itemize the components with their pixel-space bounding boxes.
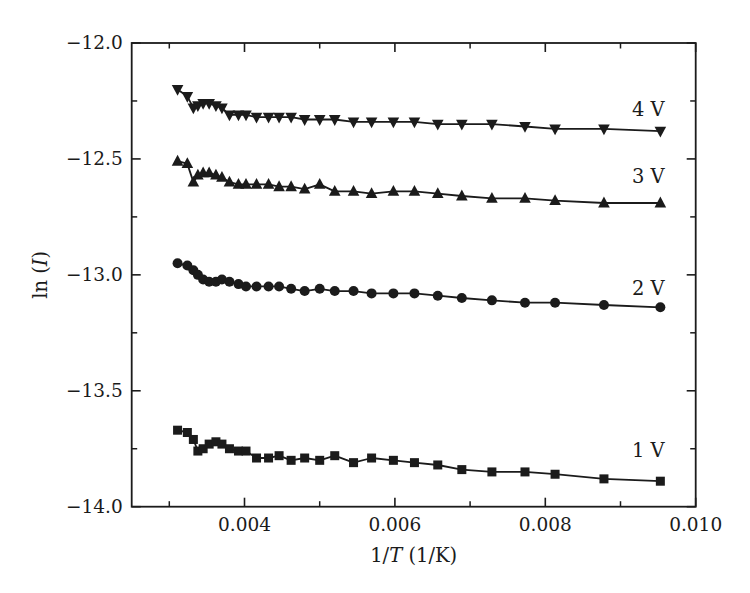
data-point-square	[264, 454, 273, 463]
series-line-3-v	[178, 161, 661, 203]
data-point-square	[225, 444, 234, 453]
data-point-circle	[300, 286, 310, 296]
data-point-triangle-down	[224, 110, 236, 121]
data-point-square	[520, 467, 529, 476]
data-point-triangle-up	[263, 178, 275, 189]
data-point-triangle-down	[549, 124, 561, 135]
y-axis-tick-label: −12.5	[66, 148, 123, 169]
series-1-v: 1 V	[173, 426, 666, 486]
figure: 0.0040.0060.0080.010−12.0−12.5−13.0−13.5…	[0, 0, 750, 593]
y-axis-tick-label: −13.0	[66, 264, 123, 285]
data-point-triangle-up	[172, 155, 184, 166]
series-label-2-v: 2 V	[632, 277, 666, 300]
series-line-4-v	[178, 89, 661, 131]
axis-ticks	[132, 43, 696, 507]
ln-current-vs-inverse-temperature-chart: 0.0040.0060.0080.010−12.0−12.5−13.0−13.5…	[0, 0, 750, 593]
data-point-triangle-down	[299, 115, 311, 126]
data-point-triangle-up	[348, 185, 360, 196]
data-point-circle	[599, 300, 609, 310]
data-point-circle	[264, 281, 274, 291]
data-point-triangle-up	[655, 197, 667, 208]
data-point-triangle-down	[172, 85, 184, 96]
data-point-triangle-down	[182, 92, 194, 103]
data-point-circle	[286, 284, 296, 294]
data-point-circle	[550, 298, 560, 308]
data-point-triangle-down	[388, 117, 400, 128]
series-label-3-v: 3 V	[632, 165, 666, 188]
x-axis-tick-label: 0.010	[669, 514, 722, 535]
data-point-square	[173, 426, 182, 435]
data-point-triangle-up	[519, 192, 531, 203]
series-line-1-v	[178, 430, 661, 481]
data-point-triangle-down	[456, 120, 468, 131]
data-point-circle	[315, 284, 325, 294]
data-point-triangle-up	[251, 178, 263, 189]
x-axis-tick-label: 0.006	[368, 514, 421, 535]
y-axis-tick-label: −13.5	[66, 380, 123, 401]
data-point-circle	[274, 281, 284, 291]
series-3-v: 3 V	[172, 155, 666, 208]
data-point-circle	[520, 298, 530, 308]
data-point-square	[330, 451, 339, 460]
data-point-square	[410, 458, 419, 467]
data-point-circle	[655, 302, 665, 312]
y-axis-tick-label: −12.0	[66, 32, 123, 53]
data-point-circle	[241, 281, 251, 291]
data-point-square	[367, 454, 376, 463]
data-point-triangle-up	[285, 180, 297, 191]
data-point-circle	[457, 293, 467, 303]
series-label-4-v: 4 V	[632, 98, 666, 121]
data-point-circle	[409, 288, 419, 298]
plot-frame	[132, 43, 696, 507]
data-point-square	[287, 456, 296, 465]
data-point-square	[242, 447, 251, 456]
x-axis-tick-label: 0.008	[519, 514, 572, 535]
data-point-triangle-up	[409, 185, 421, 196]
data-point-triangle-down	[366, 117, 378, 128]
y-axis-title: ln (I)	[29, 251, 52, 299]
data-point-square	[599, 474, 608, 483]
data-point-square	[551, 470, 560, 479]
series-label-1-v: 1 V	[632, 439, 666, 462]
series-2-v: 2 V	[173, 258, 666, 312]
data-point-square	[300, 454, 309, 463]
data-point-square	[457, 465, 466, 474]
data-point-triangle-up	[314, 178, 326, 189]
data-point-square	[433, 460, 442, 469]
data-point-square	[389, 456, 398, 465]
data-point-circle	[388, 288, 398, 298]
data-point-triangle-down	[251, 113, 263, 124]
data-point-square	[189, 435, 198, 444]
data-point-triangle-down	[655, 127, 667, 138]
data-point-square	[487, 467, 496, 476]
data-point-square	[315, 456, 324, 465]
data-point-triangle-down	[314, 115, 326, 126]
x-axis-tick-label: 0.004	[218, 514, 271, 535]
data-point-circle	[173, 258, 183, 268]
data-point-circle	[349, 286, 359, 296]
series-4-v: 4 V	[172, 85, 666, 138]
x-axis-title: 1/T (1/K)	[370, 544, 457, 567]
data-point-square	[656, 477, 665, 486]
data-point-triangle-down	[273, 113, 285, 124]
data-point-circle	[330, 286, 340, 296]
data-point-triangle-up	[240, 178, 252, 189]
data-point-triangle-down	[263, 113, 275, 124]
data-point-triangle-down	[348, 117, 360, 128]
data-point-circle	[487, 295, 497, 305]
data-point-circle	[433, 291, 443, 301]
data-point-square	[349, 458, 358, 467]
data-point-triangle-up	[388, 185, 400, 196]
data-point-square	[252, 454, 261, 463]
data-point-square	[275, 451, 284, 460]
y-axis-tick-label: −14.0	[66, 496, 123, 517]
data-point-triangle-down	[432, 120, 444, 131]
data-point-circle	[252, 281, 262, 291]
data-point-circle	[224, 277, 234, 287]
data-point-circle	[367, 288, 377, 298]
